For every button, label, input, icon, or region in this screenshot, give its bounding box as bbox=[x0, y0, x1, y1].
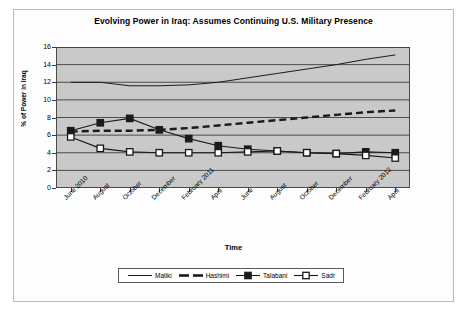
y-tick-label: 16 bbox=[31, 43, 51, 50]
data-point-sadr bbox=[97, 145, 103, 151]
legend-item-label: Hashimi bbox=[206, 272, 229, 279]
legend-item-label: Sadr bbox=[321, 272, 335, 279]
y-tick-mark bbox=[52, 118, 56, 119]
line-dashed-thick-icon bbox=[178, 271, 204, 280]
data-point-sadr bbox=[156, 150, 162, 156]
y-tick-label: 10 bbox=[31, 96, 51, 103]
y-tick-label: 8 bbox=[31, 114, 51, 121]
y-tick-mark bbox=[52, 47, 56, 48]
data-point-talabani bbox=[127, 115, 133, 121]
series-line-hashimi bbox=[71, 110, 396, 131]
y-tick-label: 2 bbox=[31, 166, 51, 173]
y-tick-mark bbox=[52, 100, 56, 101]
chart-legend: MalikiHashimiTalabaniSadr bbox=[118, 268, 344, 283]
y-tick-mark bbox=[52, 153, 56, 154]
x-axis-title: Time bbox=[0, 243, 467, 252]
series-line-maliki bbox=[71, 55, 396, 86]
legend-item-label: Talabani bbox=[263, 272, 287, 279]
data-point-sadr bbox=[186, 150, 192, 156]
data-point-sadr bbox=[333, 150, 339, 156]
series-line-talabani bbox=[71, 118, 396, 153]
y-tick-mark bbox=[52, 65, 56, 66]
y-tick-label: 4 bbox=[31, 149, 51, 156]
plot-lines bbox=[56, 47, 410, 188]
data-point-talabani bbox=[186, 135, 192, 141]
data-point-sadr bbox=[245, 149, 251, 155]
y-tick-mark bbox=[52, 188, 56, 189]
legend-item-sadr[interactable]: Sadr bbox=[293, 271, 335, 280]
y-tick-label: 12 bbox=[31, 78, 51, 85]
data-point-sadr bbox=[274, 148, 280, 154]
legend-item-label: Maliki bbox=[155, 272, 172, 279]
y-tick-label: 6 bbox=[31, 131, 51, 138]
data-point-talabani bbox=[68, 128, 74, 134]
data-point-talabani bbox=[97, 120, 103, 126]
y-tick-mark bbox=[52, 82, 56, 83]
data-point-sadr bbox=[304, 150, 310, 156]
line-open-square-icon bbox=[293, 271, 319, 280]
chart-figure: Evolving Power in Iraq: Assumes Continui… bbox=[0, 0, 467, 313]
y-axis-title: % of Power in Iraq bbox=[20, 59, 27, 139]
data-point-sadr bbox=[68, 134, 74, 140]
line-filled-square-icon bbox=[235, 271, 261, 280]
data-point-sadr bbox=[363, 152, 369, 158]
line-thin-icon bbox=[127, 271, 153, 280]
data-point-sadr bbox=[392, 155, 398, 161]
y-tick-mark bbox=[52, 135, 56, 136]
legend-item-hashimi[interactable]: Hashimi bbox=[178, 271, 229, 280]
data-point-sadr bbox=[127, 149, 133, 155]
data-point-sadr bbox=[215, 150, 221, 156]
legend-item-maliki[interactable]: Maliki bbox=[127, 271, 172, 280]
data-point-talabani bbox=[156, 127, 162, 133]
chart-title: Evolving Power in Iraq: Assumes Continui… bbox=[0, 16, 467, 26]
y-tick-label: 14 bbox=[31, 61, 51, 68]
y-tick-mark bbox=[52, 170, 56, 171]
data-point-talabani bbox=[215, 143, 221, 149]
y-tick-label: 0 bbox=[31, 184, 51, 191]
legend-item-talabani[interactable]: Talabani bbox=[235, 271, 287, 280]
